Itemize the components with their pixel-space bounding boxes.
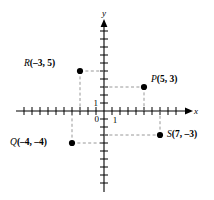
data-points-group bbox=[69, 68, 163, 146]
point-label-r-coords: (–3, 5) bbox=[30, 58, 55, 68]
data-point-s[interactable] bbox=[157, 132, 163, 138]
data-point-r[interactable] bbox=[77, 68, 83, 74]
y-axis-label: y bbox=[101, 8, 106, 18]
x-axis-label: x bbox=[193, 106, 198, 116]
point-label-p-coords: (5, 3) bbox=[157, 74, 178, 84]
x-unit-label: 1 bbox=[113, 115, 118, 125]
guide-lines-group bbox=[72, 71, 160, 143]
axes-group bbox=[16, 19, 193, 192]
data-point-p[interactable] bbox=[141, 84, 147, 90]
point-label-q-coords: (–4, –4) bbox=[17, 137, 47, 147]
origin-label: 0 bbox=[95, 114, 100, 124]
point-label-q: Q(–4, –4) bbox=[10, 138, 47, 148]
point-label-s: S(7, –3) bbox=[167, 130, 197, 140]
coordinate-plane-svg: x y 1 0 1 bbox=[0, 0, 214, 200]
coordinate-plane-figure: x y 1 0 1 R(–3, 5) P(5, 3) Q(–4, –4) S(7… bbox=[0, 0, 214, 200]
point-label-r: R(–3, 5) bbox=[24, 59, 55, 69]
point-label-p: P(5, 3) bbox=[151, 75, 177, 85]
point-label-s-coords: (7, –3) bbox=[172, 129, 197, 139]
data-point-q[interactable] bbox=[69, 140, 75, 146]
y-axis-arrowhead bbox=[101, 19, 108, 27]
point-label-q-name: Q bbox=[10, 137, 17, 147]
y-unit-label: 1 bbox=[94, 98, 99, 108]
x-axis-arrowhead bbox=[185, 108, 193, 115]
